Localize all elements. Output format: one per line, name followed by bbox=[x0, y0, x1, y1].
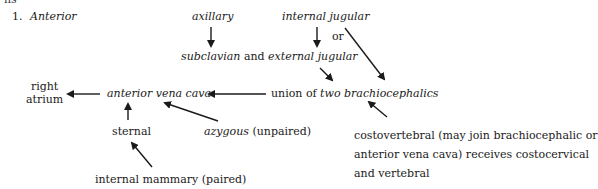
arrow-external-jugular-to-brachiocephalics bbox=[320, 68, 332, 80]
arrow-internal-jugular-to-brachiocephalics bbox=[345, 28, 384, 79]
arrow-internal-mammary-to-sternal bbox=[132, 143, 152, 167]
arrow-costovertebral-to-brachiocephalics bbox=[369, 102, 387, 117]
arrow-azygous-to-avc bbox=[165, 103, 218, 121]
